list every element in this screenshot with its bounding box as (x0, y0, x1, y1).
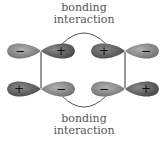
top-interaction-arc (62, 33, 106, 44)
bottom-interaction-arc (62, 96, 106, 107)
sign: + (56, 44, 66, 58)
sign: + (141, 82, 151, 96)
sign: − (99, 82, 109, 96)
bottom-label-line2: interaction (0, 125, 168, 137)
sign: + (14, 82, 24, 96)
sign: + (99, 44, 109, 58)
sign: − (56, 82, 66, 96)
sign: − (141, 44, 151, 58)
bottom-bonding-label: bonding interaction (0, 113, 168, 137)
sign: − (15, 44, 25, 58)
